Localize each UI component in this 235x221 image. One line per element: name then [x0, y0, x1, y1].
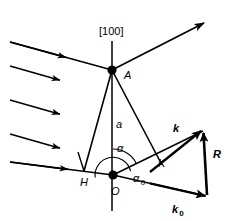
label-vector-k0-base: k	[172, 203, 179, 215]
label-angle-alpha0: α0	[133, 172, 146, 187]
segment-h-foot	[78, 152, 84, 171]
incident-ray-5-arrowhead	[10, 162, 68, 169]
vector-r	[204, 133, 208, 195]
label-direction-100: [100]	[99, 25, 123, 37]
label-vector-k0: k0	[172, 203, 184, 218]
segment-a-h	[84, 70, 112, 171]
node-point-a	[107, 65, 116, 74]
incident-ray-4	[10, 134, 60, 148]
vector-k0	[150, 183, 205, 195]
diagram-canvas: [100] A a α α0 H O K k k0 R	[0, 0, 235, 221]
node-point-o	[108, 170, 117, 179]
incident-beam-group	[10, 42, 113, 175]
label-angle-alpha0-sub: 0	[141, 178, 146, 187]
label-point-h: H	[80, 176, 88, 188]
label-vector-k: k	[173, 122, 180, 134]
label-angle-alpha: α	[117, 142, 124, 154]
label-point-a: A	[123, 69, 131, 81]
label-segment-a: a	[116, 118, 122, 130]
label-vector-k0-sub: 0	[179, 209, 184, 218]
scattered-ray	[112, 23, 204, 70]
incident-ray-2	[10, 66, 60, 80]
incident-ray-3	[10, 100, 60, 114]
label-angle-alpha0-base: α	[133, 172, 140, 184]
diffraction-diagram: [100] A a α α0 H O K k k0 R	[0, 0, 235, 221]
label-point-k: K	[158, 157, 166, 169]
incident-ray-1-arrowhead	[10, 42, 66, 57]
label-point-o: O	[111, 185, 120, 197]
label-vector-r: R	[213, 148, 221, 160]
